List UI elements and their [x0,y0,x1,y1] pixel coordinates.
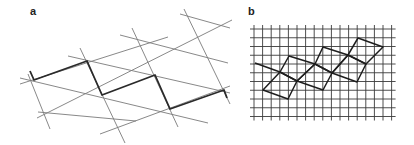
lattice-line [20,78,208,123]
lattice-line [100,86,230,134]
lattice-line [132,28,178,127]
diagram-canvas [0,0,414,145]
lattice-line [180,14,230,28]
panel-b-square-grid [250,25,396,121]
lattice-line [38,112,136,121]
bold-zigzag-path [30,61,227,109]
panel-a-triangular-lattice [20,9,232,143]
